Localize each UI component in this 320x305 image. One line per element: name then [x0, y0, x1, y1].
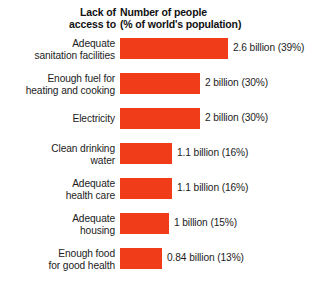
bar-fill — [120, 143, 172, 164]
bar-value-label: 0.84 billion (13%) — [167, 252, 244, 264]
bar-row-label: Electricity — [3, 108, 115, 125]
bar-track: 2 billion (30%) — [120, 108, 316, 129]
bar-row-label: Adequate sanitation facilities — [3, 38, 115, 61]
bar-value-label: 1.1 billion (16%) — [177, 182, 248, 194]
bar-track: 2 billion (30%) — [120, 73, 316, 94]
bar-fill — [120, 73, 200, 94]
chart-header: Lack of access to Number of people (% of… — [0, 6, 320, 36]
bar-fill — [120, 213, 169, 234]
bar-fill — [120, 108, 200, 129]
bar-row-label: Clean drinking water — [3, 143, 115, 166]
bar-row: Adequate health care 1.1 billion (16%) — [0, 178, 320, 213]
bar-value-label: 2 billion (30%) — [205, 77, 268, 89]
bar-fill — [120, 38, 228, 59]
bar-row-label: Adequate housing — [3, 213, 115, 236]
value-axis-title-line2: (% of world's population) — [120, 18, 316, 30]
bar-fill — [120, 178, 172, 199]
bar-rows: Adequate sanitation facilities 2.6 billi… — [0, 38, 320, 283]
bar-row: Adequate sanitation facilities 2.6 billi… — [0, 38, 320, 73]
category-axis-title-line1: Lack of — [6, 6, 116, 18]
bar-track: 1 billion (15%) — [120, 213, 316, 234]
category-axis-title: Lack of access to — [6, 6, 116, 31]
bar-track: 0.84 billion (13%) — [120, 248, 316, 269]
bar-row: Enough food for good health 0.84 billion… — [0, 248, 320, 283]
bar-row-label: Enough fuel for heating and cooking — [3, 73, 115, 96]
value-axis-title: Number of people (% of world's populatio… — [120, 6, 316, 31]
bar-chart: Lack of access to Number of people (% of… — [0, 0, 320, 305]
bar-row: Clean drinking water 1.1 billion (16%) — [0, 143, 320, 178]
bar-track: 1.1 billion (16%) — [120, 143, 316, 164]
bar-track: 1.1 billion (16%) — [120, 178, 316, 199]
value-axis-title-line1: Number of people — [120, 6, 316, 18]
bar-row: Electricity 2 billion (30%) — [0, 108, 320, 143]
bar-row-label: Enough food for good health — [3, 248, 115, 271]
bar-fill — [120, 248, 162, 269]
bar-row: Adequate housing 1 billion (15%) — [0, 213, 320, 248]
bar-value-label: 2.6 billion (39%) — [233, 42, 304, 54]
bar-value-label: 1 billion (15%) — [174, 217, 237, 229]
bar-row: Enough fuel for heating and cooking 2 bi… — [0, 73, 320, 108]
category-axis-title-line2: access to — [6, 18, 116, 30]
bar-value-label: 1.1 billion (16%) — [177, 147, 248, 159]
bar-track: 2.6 billion (39%) — [120, 38, 316, 59]
bar-value-label: 2 billion (30%) — [205, 112, 268, 124]
bar-row-label: Adequate health care — [3, 178, 115, 201]
